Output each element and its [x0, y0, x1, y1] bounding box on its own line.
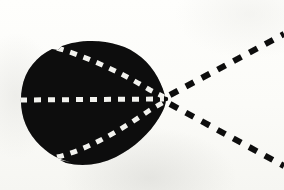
dark-lobe — [21, 41, 166, 165]
convergence-apex — [164, 97, 168, 101]
diagram-canvas: Scanned technical diagram: dark lobe wit… — [0, 0, 284, 190]
convergence-apex-dot — [164, 97, 168, 101]
exterior-ray-lower — [170, 104, 284, 166]
dark-lobe-path — [21, 41, 166, 165]
figure-root: Scanned technical diagram: dark lobe wit… — [0, 0, 284, 190]
exterior-ray-upper — [170, 34, 284, 95]
black-dashed-rays — [170, 34, 284, 166]
